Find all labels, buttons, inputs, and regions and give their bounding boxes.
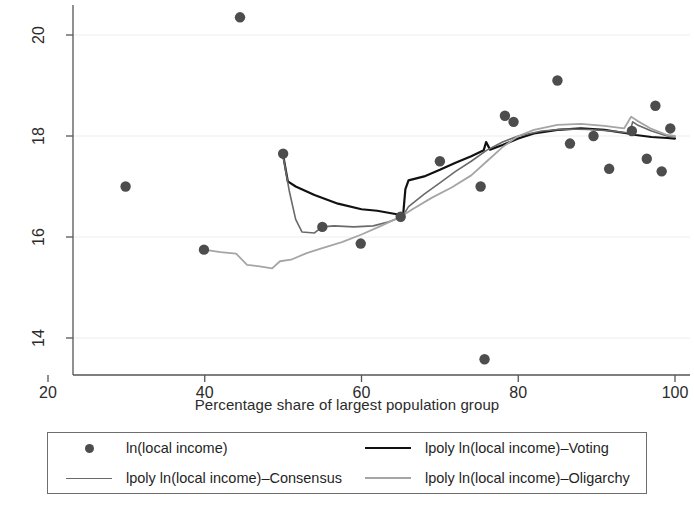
series-lines	[204, 117, 675, 269]
x-axis-title: Percentage share of largest population g…	[0, 396, 694, 413]
legend-marker-line-icon-voting	[357, 447, 419, 449]
legend-label-0: ln(local income)	[120, 440, 228, 456]
legend-item-voting: lpoly ln(local income)–Voting	[347, 433, 646, 463]
y-tick-label-14: 14	[28, 318, 50, 358]
gridlines	[73, 35, 690, 338]
legend-label-3: lpoly ln(local income)–Oligarchy	[419, 470, 630, 486]
legend-label-2: lpoly ln(local income)–Consensus	[120, 470, 342, 486]
legend-item-oligarchy: lpoly ln(local income)–Oligarchy	[347, 463, 646, 493]
chart-figure: 14 16 18 20 20 40 60 80 100 Percentage s…	[0, 0, 694, 512]
y-tick-label-18: 18	[28, 116, 50, 156]
legend-item-consensus: lpoly ln(local income)–Consensus	[48, 463, 347, 493]
legend-label-1: lpoly ln(local income)–Voting	[419, 440, 609, 456]
scatter-points	[120, 12, 675, 364]
legend-marker-line-icon-consensus	[58, 478, 120, 479]
legend: ln(local income) lpoly ln(local income)–…	[47, 432, 647, 494]
y-tick-label-20: 20	[28, 15, 50, 55]
y-tick-label-16: 16	[28, 217, 50, 257]
legend-item-ln-local-income: ln(local income)	[48, 433, 347, 463]
legend-marker-dot-icon	[58, 444, 120, 453]
legend-marker-line-icon-oligarchy	[357, 477, 419, 479]
axis-lines	[48, 5, 690, 382]
